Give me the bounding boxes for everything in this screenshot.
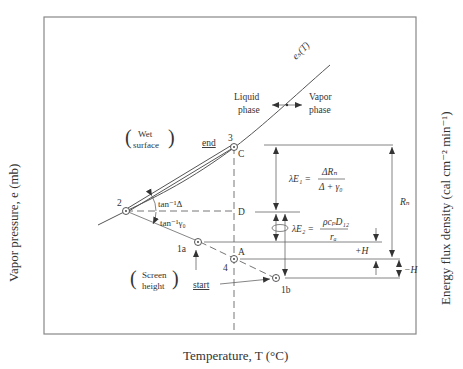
point-2 [123,208,130,215]
label-D: D [238,207,245,217]
label-1a: 1a [177,244,187,254]
y-axis-label-right: Energy flux density (cal cm⁻² min⁻¹) [438,112,453,305]
plusH-label: +H [355,246,369,256]
liquid-phase-label-2: phase [238,105,260,115]
point-4 [231,256,238,263]
lE2-ellipse [272,225,288,232]
label-C: C [238,149,244,159]
minusH-label: −H [404,265,418,275]
screen-paren-left: ( [130,267,137,290]
screen-label-2: height [142,281,165,291]
vapor-phase-label-2: phase [309,105,331,115]
wet-label-1: Wet [138,129,153,139]
point-1a [195,239,202,246]
label-3: 3 [228,133,233,143]
wet-paren-right: ) [168,126,175,149]
label-2: 2 [117,198,122,208]
Rn-label: Rₙ [399,197,410,207]
psychrometric-energy-diagram: eₛ(T) Liquid phase Vapor phase 3 C 2 D 1… [0,0,463,369]
curve-label: eₛ(T) [290,39,313,62]
label-A: A [238,247,245,257]
label-1b: 1b [281,285,291,295]
liquid-phase-label-1: Liquid [234,92,260,102]
start-arrow-right [220,279,270,284]
wet-paren-left: ( [125,126,132,149]
end-marker: end [202,138,216,148]
phase-point [286,104,288,106]
screen-label-1: Screen [142,270,167,280]
lE2-den: rₐ [330,232,337,242]
angle-label-gamma: tan⁻¹γ₀ [160,218,186,228]
label-4: 4 [223,263,228,273]
start-marker: start [193,280,210,290]
y-axis-label-left: Vapor pressure, e (mb) [6,164,21,282]
wet-label-2: surface [133,140,159,150]
angle-label-delta: tan⁻¹Δ [158,199,182,209]
lE2-num: ρcₚD₁₂ [322,217,350,227]
point-1b [273,275,280,282]
vapor-phase-label-1: Vapor [309,92,333,102]
plot-frame [44,17,416,334]
lE1-den: Δ + γ₀ [318,182,343,192]
angle-arc-gamma [153,212,156,224]
screen-paren-right: ) [172,267,179,290]
lE1-num: ΔRₙ [321,167,337,177]
x-axis-label: Temperature, T (°C) [183,348,288,363]
point-3 [231,144,238,151]
lE2-lhs: λE₂ = [291,224,314,234]
lE1-lhs: λE₁ = [288,174,311,184]
